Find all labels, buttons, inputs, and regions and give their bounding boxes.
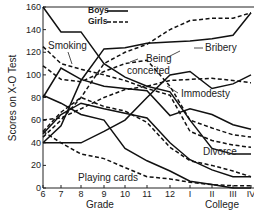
y-tick-label: 80 bbox=[31, 93, 41, 103]
x-tick-label: 9 bbox=[101, 189, 106, 199]
y-tick-label: 120 bbox=[26, 47, 41, 57]
legend: Boys Girls bbox=[88, 5, 128, 26]
x-tick-label: 11 bbox=[142, 189, 151, 199]
series-line bbox=[43, 103, 251, 177]
legend-boys-label: Boys bbox=[88, 5, 109, 15]
x-axis-label-grade: Grade bbox=[86, 199, 114, 210]
x-axis-label-college: College bbox=[205, 199, 239, 210]
annotation-playing-cards: Playing cards bbox=[78, 172, 138, 183]
annotation-divorce: Divorce bbox=[203, 146, 237, 157]
series-line bbox=[43, 131, 251, 185]
x-tick-label: 10 bbox=[120, 189, 130, 199]
annotation-conceited: conceited bbox=[127, 65, 170, 76]
x-tick-label: II bbox=[209, 189, 214, 199]
annotation-bribery: Bribery bbox=[205, 42, 237, 53]
x-tick-label: IV bbox=[247, 189, 254, 199]
y-tick-label: 100 bbox=[26, 70, 41, 80]
x-tick-label: 12 bbox=[165, 189, 175, 199]
y-tick-label: 160 bbox=[26, 2, 41, 12]
y-tick-label: 60 bbox=[31, 115, 41, 125]
series-line bbox=[43, 78, 251, 120]
annotation-smoking: Smoking bbox=[48, 40, 87, 51]
x-tick-label: 8 bbox=[78, 189, 83, 199]
annotation-immodesty: Immodesty bbox=[181, 88, 230, 99]
x-tick-label: I bbox=[189, 189, 192, 199]
legend-girls-label: Girls bbox=[88, 16, 108, 26]
line-chart: 020406080100120140160 6789101112IIIIIIIV… bbox=[0, 0, 254, 213]
x-tick-label: 7 bbox=[58, 189, 63, 199]
series-line bbox=[43, 98, 251, 177]
y-tick-label: 140 bbox=[26, 25, 41, 35]
y-tick-label: 40 bbox=[31, 138, 41, 148]
x-tick-label: 6 bbox=[40, 189, 45, 199]
annotation-being: Being bbox=[146, 53, 172, 64]
x-axis-ticks: 6789101112IIIIIIIV bbox=[40, 185, 254, 199]
y-axis-label: Scores on X-O Test bbox=[7, 55, 18, 142]
x-tick-label: III bbox=[229, 189, 237, 199]
y-tick-label: 20 bbox=[31, 160, 41, 170]
